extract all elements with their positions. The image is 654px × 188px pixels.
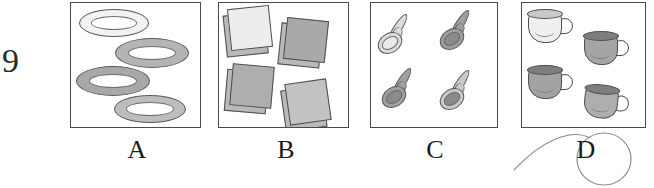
cup-gloss: [535, 83, 554, 93]
plate-well: [91, 16, 137, 29]
option-label-a[interactable]: A: [117, 137, 157, 163]
option-panel-c[interactable]: [370, 2, 498, 128]
option-panel-d[interactable]: [521, 2, 646, 128]
cup-item: [528, 65, 574, 101]
cup-rim: [527, 65, 563, 75]
option-label-d[interactable]: D: [566, 137, 606, 163]
question-number: 9: [2, 44, 19, 78]
plate-item: [115, 38, 189, 68]
cup-item: [528, 9, 574, 45]
cup-rim: [527, 9, 563, 19]
napkin-sheet: [283, 17, 329, 63]
spoon-item: [377, 11, 423, 61]
cup-gloss: [535, 27, 554, 37]
napkin-sheet: [229, 63, 275, 109]
napkin-item: [227, 5, 273, 51]
napkin-item: [283, 17, 329, 63]
spoon-item: [381, 65, 427, 115]
option-panel-b[interactable]: [218, 2, 349, 128]
plate-well: [126, 102, 174, 115]
cup-gloss: [591, 49, 610, 59]
cup-rim: [583, 31, 619, 41]
plate-item: [114, 95, 186, 123]
cup-item: [582, 83, 632, 124]
napkin-item: [284, 78, 331, 125]
spoon-item: [439, 67, 485, 117]
napkin-sheet: [284, 78, 331, 125]
option-panel-a[interactable]: [70, 2, 201, 128]
option-label-b[interactable]: B: [266, 137, 306, 163]
plate-item: [76, 66, 150, 96]
napkin-sheet: [227, 5, 273, 51]
napkin-item: [229, 63, 275, 109]
option-label-c[interactable]: C: [415, 137, 455, 163]
plate-item: [79, 9, 149, 37]
cup-item: [584, 31, 630, 67]
spoon-item: [439, 7, 485, 57]
